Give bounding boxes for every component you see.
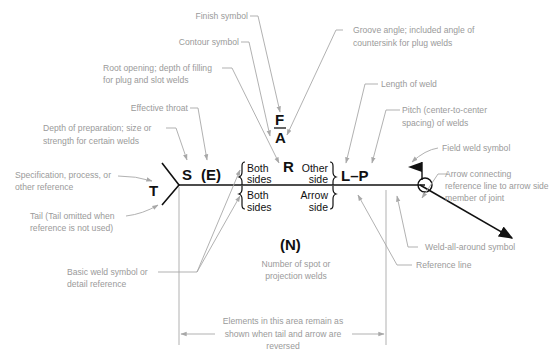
label-number-welds-2: projection welds xyxy=(265,271,327,281)
lower-right-line2: side xyxy=(309,201,328,213)
brace-right-lower xyxy=(330,186,336,209)
number-text: (N) xyxy=(280,236,301,253)
lower-right-line1: Arrow xyxy=(301,189,329,201)
lower-left-line1: Both xyxy=(247,189,269,201)
tail-icon xyxy=(162,163,179,205)
upper-left-line2: sides xyxy=(247,173,272,185)
label-tail-1: Tail (Tail omitted when xyxy=(30,211,115,221)
size-text: S xyxy=(182,166,192,183)
angle-text: A xyxy=(275,129,286,146)
label-field-weld: Field weld symbol xyxy=(442,143,510,153)
brace-left-lower xyxy=(239,186,245,209)
label-groove-angle-1: Groove angle; included angle of xyxy=(353,25,475,35)
finish-text: F xyxy=(275,111,284,128)
label-elements-area-2: shown when tail and arrow are xyxy=(225,329,342,339)
label-pitch-1: Pitch (center-to-center xyxy=(402,105,487,115)
label-basic-weld-2: detail reference xyxy=(67,279,126,289)
label-specification-1: Specification, process, or xyxy=(15,170,111,180)
label-elements-area-3: reversed xyxy=(266,341,300,351)
effective-throat-text: (E) xyxy=(201,166,221,183)
label-reference-line: Reference line xyxy=(416,260,472,270)
upper-right-line2: side xyxy=(309,173,328,185)
label-root-opening-2: for plug and slot welds xyxy=(103,75,189,85)
label-effective-throat: Effective throat xyxy=(131,103,189,113)
lower-left-line2: sides xyxy=(247,201,272,213)
label-finish-symbol: Finish symbol xyxy=(195,11,248,21)
label-arrow-connecting-1: Arrow connecting xyxy=(445,169,512,179)
label-groove-angle-2: countersink for plug welds xyxy=(353,38,452,48)
root-text: R xyxy=(283,158,294,175)
label-arrow-connecting-2: reference line to arrow side xyxy=(445,181,549,191)
label-length-of-weld: Length of weld xyxy=(381,79,437,89)
label-basic-weld-1: Basic weld symbol or xyxy=(67,267,148,277)
label-specification-2: other reference xyxy=(15,182,74,192)
label-contour-symbol: Contour symbol xyxy=(179,37,239,47)
label-depth-prep-2: strength for certain welds xyxy=(43,136,139,146)
field-weld-flag-icon xyxy=(408,162,422,172)
label-pitch-2: spacing) of welds xyxy=(402,118,468,128)
label-root-opening-1: Root opening; depth of filling xyxy=(103,63,212,73)
length-pitch-text: L–P xyxy=(341,167,369,184)
welding-symbol-diagram: T S (E) F A R L–P (N) Both sides Other s… xyxy=(0,0,560,358)
brace-right-upper xyxy=(330,162,336,185)
label-arrow-connecting-3: member of joint xyxy=(445,193,505,203)
tail-text: T xyxy=(149,182,158,199)
brace-left-upper xyxy=(239,162,245,185)
label-tail-2: reference is not used) xyxy=(30,223,113,233)
label-number-welds-1: Number of spot or xyxy=(262,259,331,269)
label-depth-prep-1: Depth of preparation; size or xyxy=(43,123,152,133)
labels: Finish symbol Contour symbol Root openin… xyxy=(15,11,549,351)
label-weld-all-around: Weld-all-around symbol xyxy=(425,242,515,252)
label-elements-area-1: Elements in this area remain as xyxy=(223,316,343,326)
